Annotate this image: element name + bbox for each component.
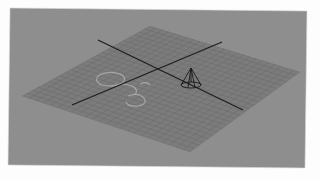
perspective-viewport[interactable] [0, 0, 320, 180]
screenshot-stage [0, 0, 320, 180]
